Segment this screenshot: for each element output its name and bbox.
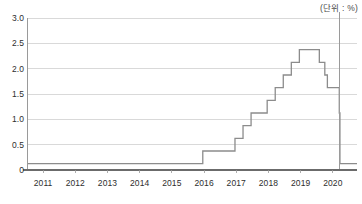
y-tick-label: 0 [0,165,24,175]
x-tick-label: 2019 [284,178,318,188]
x-tick-label: 2020 [316,178,350,188]
y-tick-label: 0.5 [0,140,24,150]
y-tick-label: 3.0 [0,13,24,23]
y-tick-label: 2.0 [0,64,24,74]
x-tick-label: 2016 [187,178,221,188]
y-tick-label: 1.5 [0,89,24,99]
series-paths [27,50,357,164]
axis-lines [23,18,357,173]
gridlines [27,18,357,145]
x-tick-label: 2011 [26,178,60,188]
x-tick-label: 2018 [251,178,285,188]
x-tick-label: 2012 [58,178,92,188]
policy-rate-chart: % (단위 : %) 3.02.52.01.51.00.50 201120122… [0,0,362,204]
y-tick-label: 1.0 [0,114,24,124]
x-tick-label: 2015 [155,178,189,188]
x-tick-label: 2013 [90,178,124,188]
chart-canvas [0,0,362,204]
x-tick-label: 2017 [219,178,253,188]
x-tick-label: 2014 [123,178,157,188]
y-tick-label: 2.5 [0,38,24,48]
series-line-policy-rate [27,50,357,164]
